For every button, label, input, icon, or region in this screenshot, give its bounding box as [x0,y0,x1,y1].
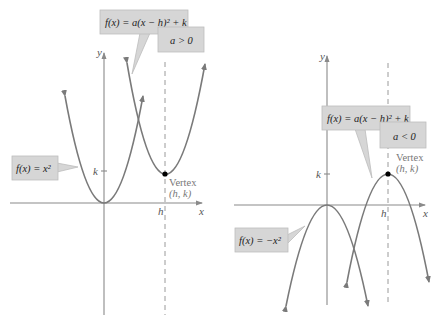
diagram-canvas: y x k h Vertex (h, k) f(x) = a(x − h)² +… [0,0,438,327]
x-axis-label: x [422,207,428,219]
k-label: k [93,165,99,177]
vertex-point [385,171,390,176]
vertex-point [162,171,167,176]
base-function-text: f(x) = x² [16,163,52,175]
vertex-label: Vertex [169,177,197,188]
callout-pointer [132,33,150,74]
h-label: h [158,205,164,217]
callout-pointer [355,129,372,178]
x-axis-label: x [198,205,204,217]
left-graph: y x k h Vertex (h, k) f(x) = a(x − h)² +… [10,10,205,315]
vertex-label: Vertex [396,152,424,163]
y-axis-label: y [319,50,325,62]
vertex-coords: (h, k) [396,163,419,175]
vertex-coords: (h, k) [169,188,192,200]
right-graph: y x k h Vertex (h, k) f(x) = a(x − h)² +… [234,50,429,306]
parabola-shifted [127,63,205,174]
condition-text: a < 0 [393,131,417,142]
base-function-text: f(x) = −x² [239,235,282,247]
condition-text: a > 0 [170,35,194,46]
h-label: h [381,207,387,219]
y-axis-label: y [96,46,102,58]
k-label: k [316,168,322,180]
base-callout-pointer [57,163,78,172]
